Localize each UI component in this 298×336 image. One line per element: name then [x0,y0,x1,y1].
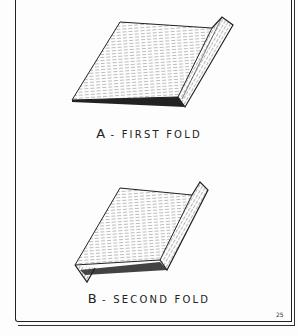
caption-letter: B [88,291,97,306]
caption-text: SECOND FOLD [113,294,210,305]
caption-separator: - [102,294,108,305]
caption-first-fold: A - FIRST FOLD [0,126,298,141]
illustration-page: A - FIRST FOLD B - SECOND FOLD 25 [0,0,298,336]
caption-second-fold: B - SECOND FOLD [0,291,298,306]
page-number: 25 [276,311,284,318]
caption-text: FIRST FOLD [122,129,202,140]
caption-letter: A [96,126,105,141]
figure-b-second-fold [75,182,208,282]
fold-diagrams [0,0,298,336]
caption-separator: - [110,129,116,140]
figure-a-first-fold [72,17,233,107]
